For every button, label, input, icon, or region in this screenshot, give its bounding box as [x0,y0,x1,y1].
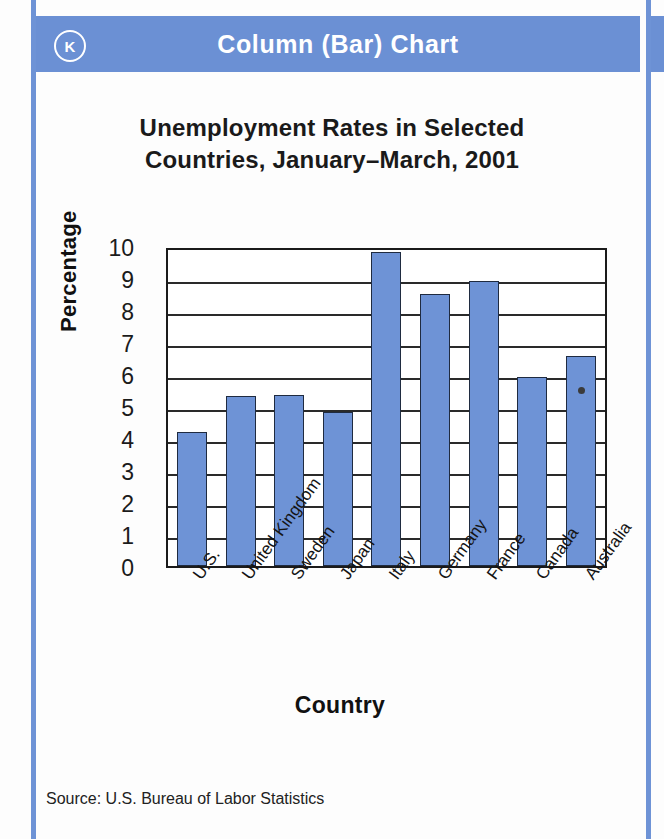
bar-united-kingdom[interactable] [226,396,256,566]
bar-series [168,250,605,566]
header-bar: K Column (Bar) Chart [36,16,640,72]
y-tick-6: 6 [88,363,134,390]
y-tick-10: 10 [88,235,134,262]
y-tick-2: 2 [88,491,134,518]
y-tick-8: 8 [88,299,134,326]
y-tick-0: 0 [88,555,134,582]
y-tick-7: 7 [88,331,134,358]
page-background: K Column (Bar) Chart Unemployment Rates … [0,0,664,839]
left-blue-rule [31,0,36,839]
y-tick-5: 5 [88,395,134,422]
right-blue-rule [646,0,651,839]
x-axis-tick-labels: U.S.United KingdomSwedenJapanItalyGerman… [166,572,607,682]
header-title: Column (Bar) Chart [36,16,640,72]
bar-italy[interactable] [371,252,401,566]
bar-u-s[interactable] [177,432,207,566]
chart-title-line-2: Countries, January–March, 2001 [52,144,612,176]
y-tick-4: 4 [88,427,134,454]
header-side-tab [651,16,664,72]
source-note: Source: U.S. Bureau of Labor Statistics [46,790,324,808]
chart-title-line-1: Unemployment Rates in Selected [52,112,612,144]
bar-germany[interactable] [420,294,450,566]
y-tick-9: 9 [88,267,134,294]
x-axis-title: Country [60,692,620,719]
y-axis-tick-labels: 109876543210 [88,236,134,568]
chart-plot-area: Percentage 109876543210 U.S.United Kingd… [60,236,620,576]
annotation-dot-icon [578,387,585,394]
y-axis-title: Percentage [56,210,82,332]
plot-frame [166,248,607,568]
y-tick-1: 1 [88,523,134,550]
chart-title: Unemployment Rates in Selected Countries… [52,112,612,177]
y-tick-3: 3 [88,459,134,486]
